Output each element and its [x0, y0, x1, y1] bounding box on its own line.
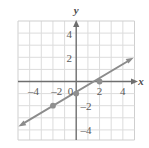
y-tick-label-pos4: 4 [67, 28, 73, 40]
data-point-marker [50, 103, 56, 109]
y-tick-label-neg2: –2 [80, 100, 92, 112]
y-axis-name: y [72, 4, 79, 16]
x-tick-label-pos4: 4 [120, 85, 126, 97]
y-tick-label-pos2: 2 [67, 52, 73, 64]
graph-figure: –4 –2 0 2 4 4 2 –2 –4 x y [0, 0, 149, 148]
x-tick-label-neg4: –4 [27, 85, 40, 97]
data-point-marker [73, 91, 79, 97]
y-axis [73, 20, 79, 140]
x-tick-label-pos2: 2 [97, 85, 103, 97]
data-point-marker [97, 79, 103, 85]
x-axis-name: x [137, 75, 144, 87]
origin-label: 0 [68, 85, 74, 97]
coordinate-plane-svg: –4 –2 0 2 4 4 2 –2 –4 x y [0, 0, 149, 148]
x-axis [18, 78, 138, 84]
y-tick-label-neg4: –4 [80, 124, 93, 136]
x-tick-label-neg2: –2 [50, 85, 62, 97]
